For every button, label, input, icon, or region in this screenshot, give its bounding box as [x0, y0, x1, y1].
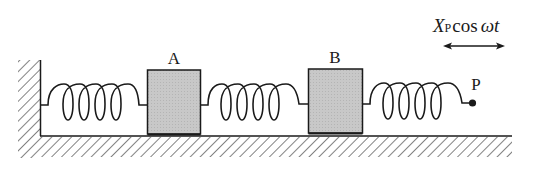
point-p: P: [469, 75, 481, 107]
double-arrow-icon: [443, 43, 505, 50]
mass-a: A: [148, 49, 201, 135]
svg-text:XPcosωt: XPcosωt: [432, 15, 500, 36]
mass-a-label: A: [168, 49, 181, 68]
mass-b-label: B: [329, 48, 340, 67]
spring-mass-diagram: A B P XPcosωt: [0, 0, 535, 186]
excitation-function: cos: [452, 15, 477, 36]
spring-b-to-p: [363, 83, 473, 119]
floor-ground: [40, 136, 512, 157]
excitation-subscript: P: [445, 21, 452, 35]
point-p-label: P: [471, 75, 480, 94]
spring-wall-to-a: [41, 84, 148, 120]
fixed-wall: [18, 60, 41, 158]
spring-a-to-b: [201, 84, 309, 120]
mass-b: B: [309, 48, 363, 134]
excitation-label: XPcosωt: [432, 15, 500, 36]
excitation-argument: ωt: [481, 15, 500, 36]
